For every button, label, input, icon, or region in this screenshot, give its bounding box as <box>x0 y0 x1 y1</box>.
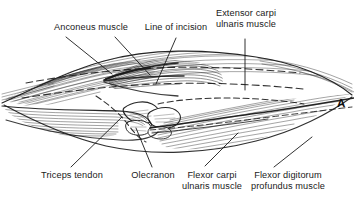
label-extensor-carpi-ulnaris-line2: ulnaris muscle <box>216 19 276 30</box>
label-flexor-digitorum-profundus-line2: profundus muscle <box>251 181 325 192</box>
label-extensor-carpi-ulnaris-line1: Extensor carpi <box>216 8 276 19</box>
label-flexor-carpi-ulnaris-line1: Flexor carpi <box>187 170 236 181</box>
label-triceps-tendon: Triceps tendon <box>41 170 103 181</box>
label-flexor-carpi-ulnaris-line2: ulnaris muscle <box>182 181 242 192</box>
label-flexor-digitorum-profundus-line1: Flexor digitorum <box>254 170 321 181</box>
label-line-of-incision: Line of incision <box>145 22 207 33</box>
label-olecranon: Olecranon <box>131 170 174 181</box>
anatomical-figure-panel: Anconeus muscle Line of incision Extenso… <box>0 0 354 207</box>
label-anconeus-muscle: Anconeus muscle <box>54 22 128 33</box>
panel-letter-a: A <box>337 97 346 109</box>
